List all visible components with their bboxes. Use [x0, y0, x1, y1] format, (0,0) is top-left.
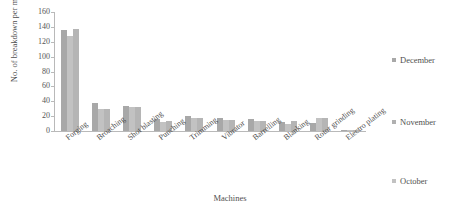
- bar-group: [179, 12, 210, 131]
- legend-item[interactable]: December: [392, 55, 435, 65]
- legend-swatch: [392, 120, 396, 124]
- legend-swatch: [392, 58, 396, 62]
- y-tick-label: 80: [20, 68, 50, 76]
- y-tick-label: 60: [20, 82, 50, 90]
- bar-chart: No. of breakdown per month 0204060801001…: [0, 0, 462, 216]
- legend-label: November: [400, 117, 436, 127]
- x-axis-title: Machines: [150, 193, 310, 203]
- y-tick-label: 120: [20, 38, 50, 46]
- bar-group: [272, 12, 303, 131]
- plot-area: 020406080100120140160: [54, 12, 366, 131]
- y-tick-label: 140: [20, 23, 50, 31]
- bar-group: [241, 12, 272, 131]
- bar-group: [210, 12, 241, 131]
- y-tick-label: 160: [20, 8, 50, 16]
- bar: [73, 29, 79, 131]
- bar-group: [85, 12, 116, 131]
- y-tick-label: 100: [20, 53, 50, 61]
- y-tick-label: 0: [20, 127, 50, 135]
- legend-item[interactable]: November: [392, 117, 436, 127]
- bar-group: [54, 12, 85, 131]
- y-tick-mark: [51, 131, 54, 132]
- bar-group: [304, 12, 335, 131]
- legend-label: October: [400, 176, 427, 186]
- legend-item[interactable]: October: [392, 176, 427, 186]
- y-tick-label: 20: [20, 112, 50, 120]
- legend-swatch: [392, 179, 396, 183]
- bar-group: [116, 12, 147, 131]
- y-axis-title: No. of breakdown per month: [9, 0, 19, 103]
- y-tick-label: 40: [20, 97, 50, 105]
- legend-label: December: [400, 55, 435, 65]
